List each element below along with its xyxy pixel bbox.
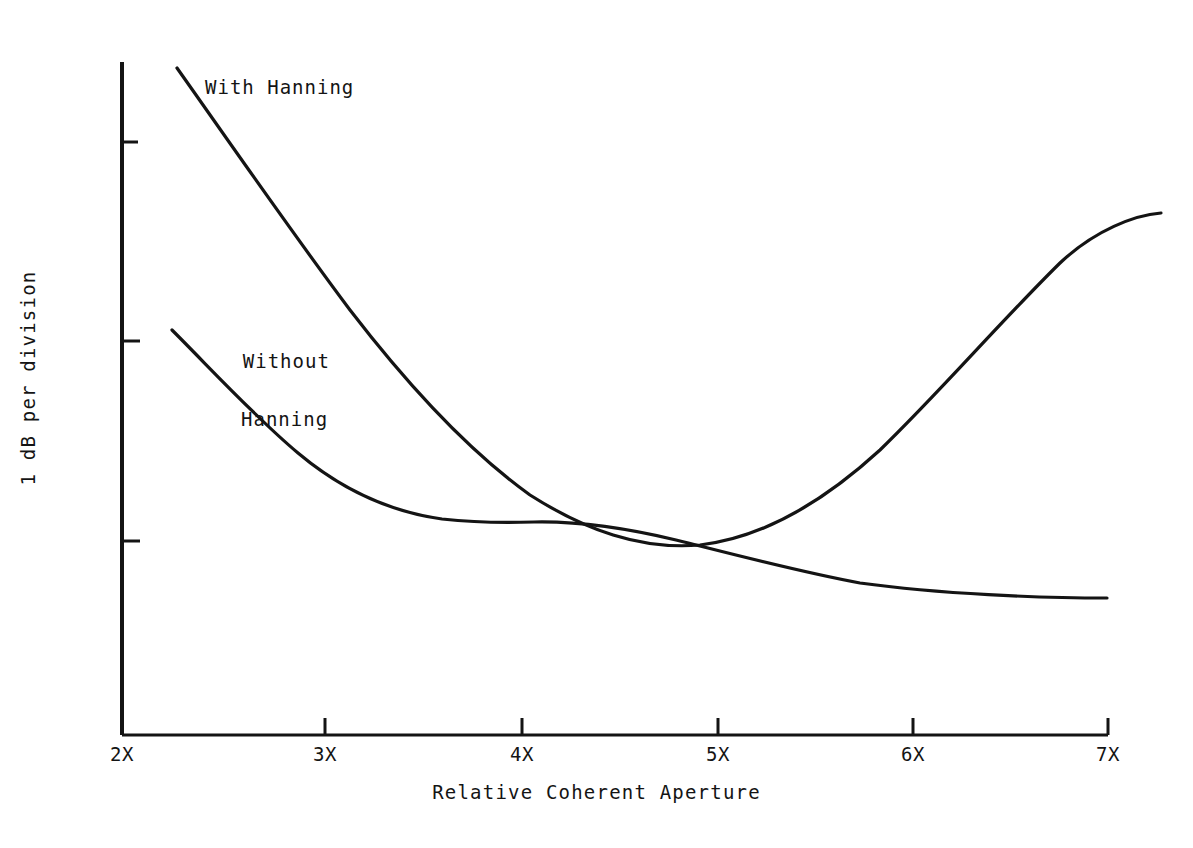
plot-canvas bbox=[0, 0, 1193, 848]
x-tick-label-3x: 3X bbox=[295, 743, 355, 765]
x-tick-label-5x: 5X bbox=[688, 743, 748, 765]
x-axis-title: Relative Coherent Aperture bbox=[0, 781, 1193, 803]
annotation-without-hanning-line2: Hanning bbox=[193, 405, 330, 434]
x-tick-label-6x: 6X bbox=[883, 743, 943, 765]
x-tick-label-7x: 7X bbox=[1078, 743, 1138, 765]
annotation-with-hanning: With Hanning bbox=[205, 73, 354, 102]
x-tick-label-2x: 2X bbox=[92, 743, 152, 765]
y-axis-title: 1 dB per division bbox=[17, 271, 39, 486]
chart-figure: 2X 3X 4X 5X 6X 7X Relative Coherent Aper… bbox=[0, 0, 1193, 848]
annotation-without-hanning: Without Hanning bbox=[193, 318, 330, 492]
x-tick-label-4x: 4X bbox=[492, 743, 552, 765]
annotation-without-hanning-line1: Without bbox=[243, 350, 330, 372]
